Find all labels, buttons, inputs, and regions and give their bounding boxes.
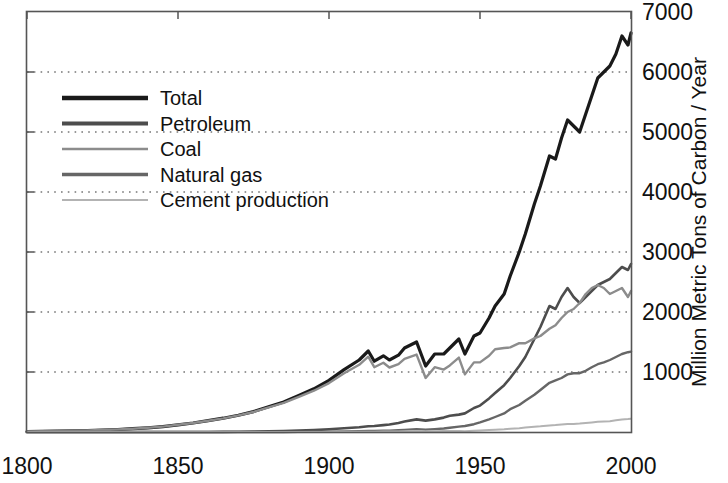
y-tick-label-6000: 6000 bbox=[642, 59, 693, 85]
y-tick-label-2000: 2000 bbox=[642, 299, 693, 325]
legend-label-petroleum: Petroleum bbox=[160, 113, 251, 135]
x-tick-label-1850: 1850 bbox=[152, 453, 203, 479]
legend-label-coal: Coal bbox=[160, 138, 201, 160]
legend-label-natural-gas: Natural gas bbox=[160, 164, 262, 186]
legend-label-cement-production: Cement production bbox=[160, 189, 329, 211]
y-tick-label-3000: 3000 bbox=[642, 239, 693, 265]
emissions-line-chart: 18001850190019502000 1000200030004000500… bbox=[0, 0, 728, 483]
x-tick-label-1950: 1950 bbox=[454, 453, 505, 479]
y-tick-label-7000: 7000 bbox=[642, 0, 693, 25]
x-tick-label-1800: 1800 bbox=[1, 453, 52, 479]
chart-figure: 18001850190019502000 1000200030004000500… bbox=[0, 0, 728, 483]
y-axis-title: Million Metric Tons of Carbon / Year bbox=[687, 57, 710, 387]
y-tick-label-5000: 5000 bbox=[642, 119, 693, 145]
legend-label-total: Total bbox=[160, 87, 202, 109]
y-tick-label-4000: 4000 bbox=[642, 179, 693, 205]
x-tick-label-2000: 2000 bbox=[605, 453, 656, 479]
y-tick-label-1000: 1000 bbox=[642, 359, 693, 385]
x-tick-label-1900: 1900 bbox=[303, 453, 354, 479]
